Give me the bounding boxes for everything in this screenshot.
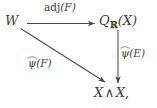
node-w: W <box>5 14 18 27</box>
arrow-diagonal-psi-f <box>21 29 106 83</box>
psi-with-widehat-f: ψ <box>28 58 36 69</box>
psi-glyph-f: ψ <box>28 57 36 69</box>
node-q-argument: (X) <box>118 13 137 28</box>
psi-glyph-e: ψ <box>121 47 129 59</box>
edge-label-psi-hat-f: ψ(F) <box>28 58 52 69</box>
edge-label-adj-prefix: adj <box>44 1 60 13</box>
node-q-base: Q <box>99 13 110 28</box>
edge-label-psi-f-argument: (F) <box>36 57 51 69</box>
smash-product-icon: ∧ <box>103 85 116 100</box>
edge-label-psi-hat-e: ψ(E) <box>121 48 145 59</box>
edge-label-psi-e-argument: (E) <box>129 47 145 59</box>
node-x-punctuation: , <box>125 85 129 100</box>
edge-label-adj-argument: (F) <box>60 1 75 13</box>
node-q-r-x: Qℝ(X) <box>99 14 137 29</box>
node-w-label: W <box>5 13 18 28</box>
edge-label-adj-f: adj(F) <box>44 2 76 13</box>
node-x-left: X <box>94 85 103 100</box>
node-q-subscript-blackboard-r: ℝ <box>110 19 118 30</box>
node-x-right: X <box>116 85 125 100</box>
psi-with-widehat-e: ψ <box>121 48 129 59</box>
commutative-diagram: W Qℝ(X) X∧X, adj(F) ψ(E) ψ(F) <box>0 0 157 108</box>
node-x-smash-x: X∧X, <box>94 86 129 99</box>
